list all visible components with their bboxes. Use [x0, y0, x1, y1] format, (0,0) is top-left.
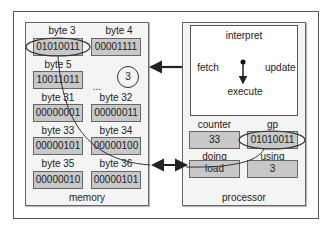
connector-overlay	[0, 0, 331, 229]
load-to-gp-curve	[186, 149, 264, 167]
byte-3-highlight-ellipse	[26, 38, 90, 56]
gp-highlight-ellipse	[239, 131, 305, 149]
byte-3-to-load-curve	[58, 56, 150, 165]
